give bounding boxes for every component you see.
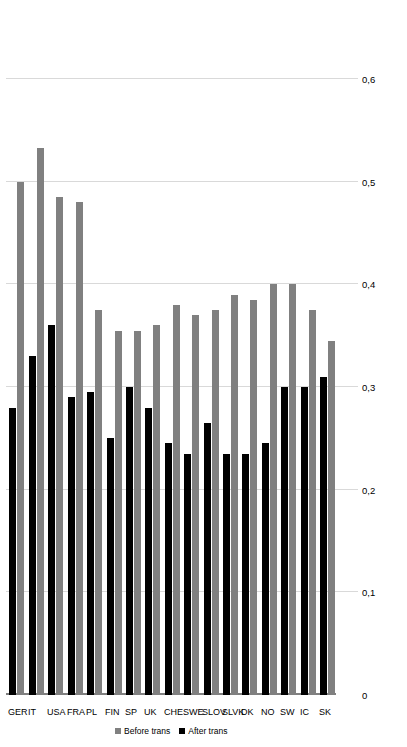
bar-after-trans (242, 454, 249, 695)
category-label: CHE (164, 707, 183, 717)
legend: Before transAfter trans (115, 725, 237, 736)
bar-before-trans (231, 295, 238, 695)
category-label: GER (8, 707, 28, 717)
bar-before-trans (37, 148, 44, 695)
bar-group (64, 0, 83, 747)
x-tick-label: 0,6 (362, 74, 375, 85)
tick-mark (336, 591, 358, 592)
bar-group (278, 0, 297, 747)
bar-group (200, 0, 219, 747)
bar-group (6, 0, 25, 747)
category-label: FIN (105, 707, 120, 717)
tick-mark (336, 489, 358, 490)
x-tick-label: 0,5 (362, 177, 375, 188)
bar-group (103, 0, 122, 747)
category-label: FRA (67, 707, 85, 717)
bar-group (142, 0, 161, 747)
x-tick-label: 0,2 (362, 485, 375, 496)
x-tick-label: 0 (362, 690, 367, 701)
bar-before-trans (17, 182, 24, 695)
category-label: SK (319, 707, 331, 717)
x-tick-label: 0,4 (362, 279, 375, 290)
bar-after-trans (9, 408, 16, 695)
bar-group (297, 0, 316, 747)
bar-before-trans (192, 315, 199, 695)
bar-after-trans (281, 387, 288, 695)
category-label: UK (144, 707, 157, 717)
bar-group (122, 0, 141, 747)
chart-figure: 00,10,20,30,40,50,6 SKICSWNODKSLVKSLOVSW… (0, 0, 407, 747)
x-tick-label: 0,3 (362, 382, 375, 393)
category-label: SLOV (202, 707, 226, 717)
bar-after-trans (145, 408, 152, 695)
bar-before-trans (95, 310, 102, 695)
bar-after-trans (301, 387, 308, 695)
legend-label: Before trans (124, 726, 170, 736)
bar-group (258, 0, 277, 747)
bar-after-trans (223, 454, 230, 695)
bar-after-trans (87, 392, 94, 695)
bar-group (220, 0, 239, 747)
legend-swatch-after (179, 728, 185, 734)
bar-before-trans (270, 284, 277, 695)
category-label: SP (125, 707, 137, 717)
category-label: PL (86, 707, 97, 717)
bar-group (161, 0, 180, 747)
category-label: NO (261, 707, 275, 717)
legend-label: After trans (188, 726, 227, 736)
category-label: IC (300, 707, 309, 717)
bar-after-trans (320, 377, 327, 695)
category-label: SWE (183, 707, 204, 717)
bar-before-trans (173, 305, 180, 695)
bar-group (84, 0, 103, 747)
bar-after-trans (29, 356, 36, 695)
bar-after-trans (68, 397, 75, 695)
bar-after-trans (165, 443, 172, 695)
bar-before-trans (309, 310, 316, 695)
bar-after-trans (126, 387, 133, 695)
legend-item: After trans (179, 725, 227, 736)
tick-mark (336, 181, 358, 182)
tick-mark (336, 386, 358, 387)
bar-group (45, 0, 64, 747)
legend-swatch-before (115, 728, 121, 734)
bar-group (317, 0, 336, 747)
bar-before-trans (153, 325, 160, 695)
chart-plot-area: 00,10,20,30,40,50,6 SKICSWNODKSLVKSLOVSW… (0, 0, 407, 747)
tick-mark (336, 283, 358, 284)
legend-item: Before trans (115, 725, 170, 736)
bar-after-trans (107, 438, 114, 695)
category-label: IT (28, 707, 36, 717)
bar-before-trans (76, 202, 83, 695)
bar-before-trans (134, 331, 141, 695)
bar-before-trans (250, 300, 257, 695)
bar-after-trans (204, 423, 211, 695)
bar-before-trans (115, 331, 122, 695)
x-tick-label: 0,1 (362, 587, 375, 598)
bar-group (25, 0, 44, 747)
bar-after-trans (262, 443, 269, 695)
bar-before-trans (328, 341, 335, 695)
category-label: SW (280, 707, 295, 717)
category-label: USA (47, 707, 66, 717)
bar-after-trans (48, 325, 55, 695)
bar-group (181, 0, 200, 747)
tick-mark (336, 78, 358, 79)
bar-before-trans (289, 284, 296, 695)
bar-before-trans (212, 310, 219, 695)
bar-before-trans (56, 197, 63, 695)
bar-group (239, 0, 258, 747)
bar-after-trans (184, 454, 191, 695)
